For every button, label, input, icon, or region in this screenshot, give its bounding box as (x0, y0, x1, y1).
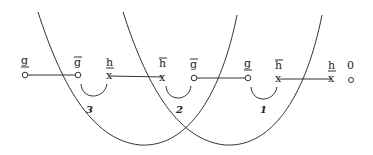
node-circle-gbar (75, 72, 81, 78)
arc-number-1: 1 (260, 104, 267, 115)
label-g: g (21, 54, 28, 67)
label-h: h (106, 56, 113, 69)
edge-h-hbar (110, 76, 163, 77)
diagram-canvas: x x x x g g h h g g h h 0 3 2 1 (0, 0, 373, 155)
node-cross-hbar: x (159, 71, 166, 84)
small-arc-2 (166, 86, 191, 98)
label-gbar: g (74, 56, 81, 69)
node-cross-h: x (106, 69, 113, 82)
label-hbar: h (159, 57, 166, 70)
node-circle-g-2 (245, 75, 251, 81)
node-cross-h-2: x (328, 72, 335, 85)
small-arc-1 (251, 87, 277, 99)
label-h-2: h (328, 59, 335, 72)
label-zero: 0 (347, 59, 354, 72)
label-hbar-2: h (275, 59, 282, 72)
arc-number-3: 3 (86, 104, 93, 115)
node-circle-gbar-2 (191, 75, 197, 81)
arc-number-2: 2 (175, 104, 183, 115)
small-arc-3 (81, 84, 107, 96)
label-gbar-2: g (190, 58, 197, 71)
big-curve-left (38, 12, 237, 145)
label-g-2: g (244, 57, 251, 70)
node-circle-zero (349, 78, 354, 83)
node-cross-hbar-2: x (275, 72, 282, 85)
node-circle-g (22, 72, 28, 78)
